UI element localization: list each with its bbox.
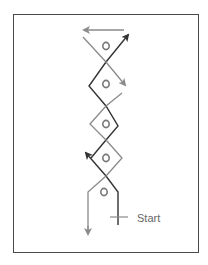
diagram-canvas: Start bbox=[0, 0, 208, 265]
cone-marker-2 bbox=[103, 80, 109, 87]
start-label: Start bbox=[137, 212, 160, 224]
cone-marker-4 bbox=[103, 154, 109, 161]
drill-path-diagram: Start bbox=[0, 0, 208, 265]
cone-marker-3 bbox=[103, 120, 109, 127]
cone-marker-5 bbox=[101, 188, 107, 195]
cone-markers bbox=[101, 42, 109, 195]
cone-marker-1 bbox=[103, 42, 109, 49]
